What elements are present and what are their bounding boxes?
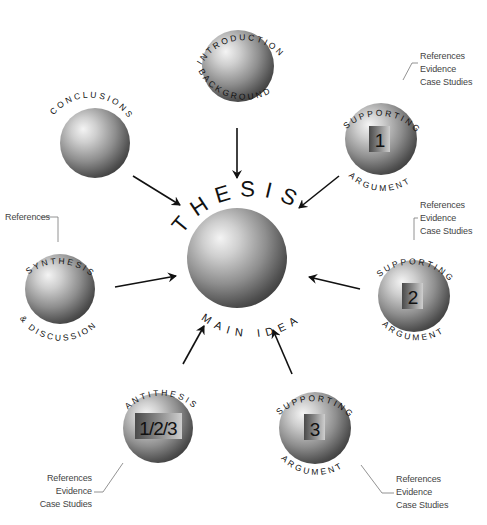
note-item: References [420, 50, 472, 63]
leader-antithesis [94, 463, 123, 492]
notes-supporting1: References Evidence Case Studies [420, 50, 472, 89]
number-1: 1 [375, 130, 386, 151]
arrow-synthesis-to-thesis [115, 276, 176, 287]
thesis-sphere [187, 208, 287, 308]
note-item: Case Studies [420, 76, 472, 89]
note-item: References [5, 211, 50, 224]
node-supporting-argument-3: 3 SUPPORTING ARGUMENT [274, 392, 356, 477]
node-antithesis: 1/2/3 ANTITHESIS [123, 388, 201, 463]
number-antithesis: 1/2/3 [139, 418, 177, 439]
leader-supporting1 [403, 63, 418, 80]
svg-text:MAIN IDEA: MAIN IDEA [200, 311, 304, 339]
number-3: 3 [310, 419, 321, 440]
note-item: Case Studies [396, 499, 448, 512]
notes-antithesis: References Evidence Case Studies [10, 472, 92, 511]
notes-supporting3: References Evidence Case Studies [396, 473, 448, 512]
note-item: Case Studies [10, 498, 92, 511]
notes-synthesis: References [5, 211, 50, 224]
notes-supporting2: References Evidence Case Studies [420, 199, 472, 238]
node-supporting-argument-2: 2 SUPPORTING ARGUMENT [374, 256, 456, 342]
node-conclusions: CONCLUSIONS [48, 89, 136, 178]
note-item: References [396, 473, 448, 486]
node-supporting-argument-1: 1 SUPPORTING ARGUMENT [341, 103, 423, 193]
arrow-supporting3-to-thesis [273, 330, 292, 374]
number-2: 2 [408, 287, 419, 308]
note-item: Case Studies [420, 225, 472, 238]
node-thesis: THESIS MAIN IDEA [167, 176, 309, 339]
arrow-supporting2-to-thesis [309, 277, 360, 289]
note-item: References [10, 472, 92, 485]
note-item: Evidence [420, 63, 472, 76]
arrow-conclusions-to-thesis [133, 176, 180, 205]
leader-supporting2 [414, 218, 418, 240]
note-item: Evidence [396, 486, 448, 499]
node-synthesis: SYNTHESIS & DISCUSSION [18, 254, 99, 343]
leader-supporting3 [361, 465, 394, 493]
conclusions-sphere [60, 108, 130, 178]
note-item: References [420, 199, 472, 212]
arrow-antithesis-to-thesis [183, 326, 204, 364]
thesis-diagram: THESIS MAIN IDEA INTRODUCTION BACKGROUND… [0, 0, 487, 525]
main-idea-label: MAIN IDEA [200, 311, 304, 339]
note-item: Evidence [10, 485, 92, 498]
note-item: Evidence [420, 212, 472, 225]
node-introduction: INTRODUCTION BACKGROUND [195, 30, 287, 102]
